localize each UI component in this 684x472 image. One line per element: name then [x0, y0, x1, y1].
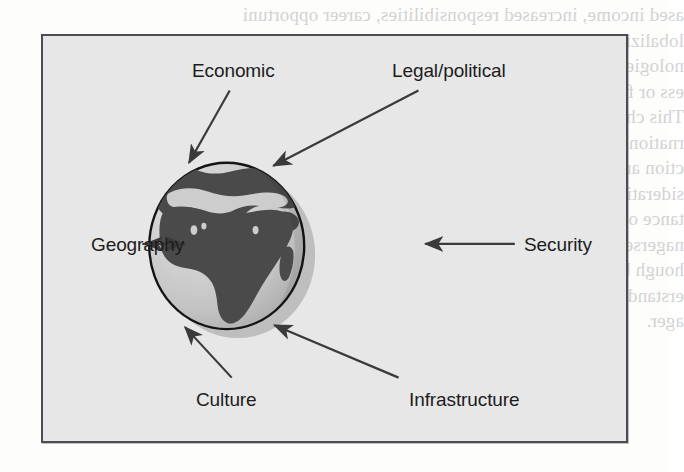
label-geography: Geography: [91, 234, 184, 256]
inland-lake-1: [191, 225, 198, 235]
label-security: Security: [524, 234, 592, 256]
label-culture: Culture: [196, 389, 257, 411]
label-economic: Economic: [192, 60, 275, 82]
label-legal-political: Legal/political: [392, 60, 506, 82]
label-infrastructure: Infrastructure: [409, 389, 520, 411]
figure-frame: Economic Legal/political Geography Secur…: [41, 34, 628, 443]
inland-lake-2: [201, 223, 206, 230]
arrow-infrastructure: [274, 325, 398, 377]
arrow-economic: [189, 90, 230, 162]
arrow-legal-political: [273, 90, 418, 165]
inland-lake-3: [253, 226, 259, 234]
